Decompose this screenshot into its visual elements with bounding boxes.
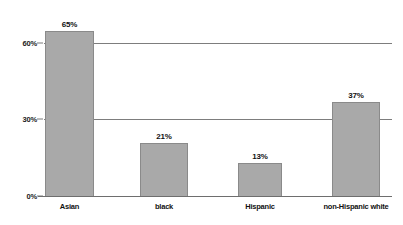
bar-category-black: black [155,202,173,211]
bar-category-non-hispanic-white: non-Hispanic white [323,202,388,211]
bar-hispanic[interactable]: 13% Hispanic [238,163,282,196]
bar-value-asian: 65% [62,20,77,29]
y-tick-label-60: 60% [23,38,37,47]
bar-category-hispanic: Hispanic [245,202,275,211]
bar-non-hispanic-white[interactable]: 37% non-Hispanic white [332,102,380,196]
y-tick-label-30: 30% [23,115,37,124]
bar-value-hispanic: 13% [252,152,267,161]
bar-asian[interactable]: 65% Asian [45,31,94,196]
y-tick-mark-60 [37,42,43,43]
bar-category-asian: Asian [60,202,79,211]
gridline-60 [44,43,392,44]
bar-chart: 60% 30% 0% 65% Asian 21% black 13% Hispa… [0,0,403,225]
bar-value-black: 21% [156,132,171,141]
bar-black[interactable]: 21% black [140,143,188,196]
y-tick-mark-30 [37,119,43,120]
bar-value-non-hispanic-white: 37% [348,91,363,100]
y-tick-label-0: 0% [27,192,37,201]
plot-area: 60% 30% 0% 65% Asian 21% black 13% Hispa… [44,8,392,196]
x-axis-line [38,196,392,197]
